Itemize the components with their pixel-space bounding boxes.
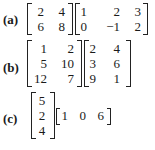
problem-label: (c) — [3, 111, 17, 127]
matrix-c-2: 1 0 6 — [56, 108, 111, 125]
matrix-cell: 2 — [57, 42, 74, 56]
matrix-cell: 2 — [103, 5, 120, 19]
matrix-cell: 0 — [76, 109, 86, 123]
matrix-cell: 5 — [31, 57, 47, 71]
matrix-cell: 1 — [31, 42, 47, 56]
matrix-cell: 6 — [94, 109, 104, 123]
matrix-cell: 12 — [31, 72, 47, 86]
matrix-cell: 2 — [86, 42, 96, 56]
matrix-cell: 2 — [32, 5, 44, 19]
matrix-cell: −1 — [103, 20, 120, 34]
matrix-cell: 4 — [53, 5, 65, 19]
matrix-cell: 6 — [106, 57, 120, 71]
matrix-cell: 8 — [53, 20, 65, 34]
matrix-cell: 1 — [58, 109, 68, 123]
matrix-cell: 5 — [35, 94, 49, 108]
problem-label: (b) — [3, 60, 19, 76]
problem-label: (a) — [3, 12, 18, 28]
matrix-a-1: 2 4 6 8 — [27, 3, 73, 35]
matrix-cell: 4 — [35, 124, 49, 138]
matrix-cell: 7 — [57, 72, 74, 86]
matrix-c-1: 5 2 4 — [31, 92, 55, 139]
matrix-cell: 1 — [77, 5, 87, 19]
matrix-cell: 6 — [32, 20, 44, 34]
matrix-cell: 4 — [106, 42, 120, 56]
matrix-cell: 1 — [106, 72, 120, 86]
matrix-a-2: 1 2 3 0 −1 2 — [75, 3, 148, 35]
matrix-cell: 9 — [86, 72, 96, 86]
matrix-cell: 3 — [127, 5, 141, 19]
matrix-cell: 0 — [77, 20, 87, 34]
matrix-cell: 10 — [57, 57, 74, 71]
matrix-b-1: 1 2 5 10 12 7 — [27, 40, 82, 87]
matrix-cell: 2 — [127, 20, 141, 34]
matrix-cell: 2 — [35, 109, 49, 123]
matrix-cell: 3 — [86, 57, 96, 71]
matrix-b-2: 2 4 3 6 9 1 — [84, 40, 131, 87]
